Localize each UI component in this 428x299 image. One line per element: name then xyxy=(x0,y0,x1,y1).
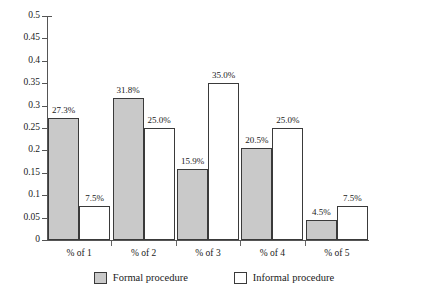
bar xyxy=(241,148,272,240)
bar xyxy=(144,128,175,240)
bar xyxy=(48,118,79,240)
y-axis-tick-label: 0.25 xyxy=(0,123,40,133)
bar-value-label: 35.0% xyxy=(202,71,245,80)
bar-value-label: 27.3% xyxy=(42,106,85,115)
y-axis-tick-label: 0.15 xyxy=(0,168,40,178)
x-axis-category-label: % of 5 xyxy=(305,249,369,259)
bar-value-label: 15.9% xyxy=(171,157,214,166)
bar-value-label: 7.5% xyxy=(73,194,116,203)
bar-value-label: 20.5% xyxy=(235,136,278,145)
y-axis-tick-label: 0.05 xyxy=(0,213,40,223)
bar-value-label: 4.5% xyxy=(300,208,343,217)
legend-swatch-informal-icon xyxy=(234,272,247,284)
x-axis-category-label: % of 2 xyxy=(111,249,175,259)
x-axis-category-label: % of 4 xyxy=(240,249,304,259)
y-axis-tick-label: 0.1 xyxy=(0,190,40,200)
bar-value-label: 25.0% xyxy=(138,116,181,125)
bar-value-label: 7.5% xyxy=(331,194,374,203)
y-axis-tick-label: 0.4 xyxy=(0,56,40,66)
x-axis-tick xyxy=(240,241,241,246)
x-axis-category-label: % of 1 xyxy=(47,249,111,259)
legend: Formal procedure Informal procedure xyxy=(0,272,428,284)
x-axis-tick xyxy=(111,241,112,246)
legend-label-formal: Formal procedure xyxy=(113,273,188,284)
x-axis-tick xyxy=(305,241,306,246)
y-axis-tick-label: 0.5 xyxy=(0,11,40,21)
y-axis-tick-label: 0.45 xyxy=(0,33,40,43)
bar-value-label: 31.8% xyxy=(107,86,150,95)
bar-value-label: 25.0% xyxy=(266,116,309,125)
legend-item-formal[interactable]: Formal procedure xyxy=(94,272,188,284)
bar xyxy=(79,206,110,240)
bar xyxy=(306,220,337,240)
legend-item-informal[interactable]: Informal procedure xyxy=(234,272,334,284)
x-axis-category-label: % of 3 xyxy=(176,249,240,259)
legend-label-informal: Informal procedure xyxy=(253,273,334,284)
y-axis-tick-label: 0.3 xyxy=(0,101,40,111)
x-axis-line xyxy=(47,240,369,241)
bar xyxy=(177,169,208,240)
y-axis-tick-label: 0.2 xyxy=(0,145,40,155)
bar-chart: 00.050.10.150.20.250.30.350.40.450.5 % o… xyxy=(0,0,428,299)
y-axis-tick-label: 0 xyxy=(0,235,40,245)
y-axis-tick-label: 0.35 xyxy=(0,78,40,88)
legend-swatch-formal-icon xyxy=(94,272,107,284)
y-axis-tick xyxy=(42,240,48,241)
x-axis-tick xyxy=(176,241,177,246)
